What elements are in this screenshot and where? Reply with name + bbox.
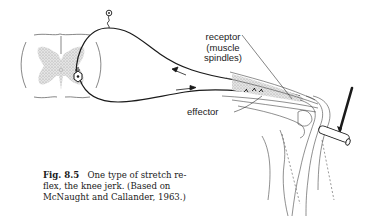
dorsal-root-ganglion — [106, 10, 112, 28]
motor-neuron-cell-body — [74, 68, 82, 82]
receptor-label-line1: receptor — [198, 32, 248, 43]
leg-movement-dashed-lines — [282, 134, 334, 204]
receptor-label: receptor (muscle spindles) — [198, 32, 248, 64]
knee-jerk-reflex-figure: receptor (muscle spindles) effector Fig.… — [0, 0, 373, 216]
caption-line3: McNaught and Callander, 1963.) — [43, 192, 203, 203]
central-canal — [60, 69, 63, 72]
quadriceps-muscle — [222, 72, 318, 112]
figure-number: Fig. 8.5 — [43, 170, 79, 180]
receptor-label-line3: spindles) — [198, 53, 248, 64]
knee-joint-and-leg — [238, 96, 330, 216]
caption-line1: One type of stretch re- — [88, 170, 187, 180]
caption-line2: flex, the knee jerk. (Based on — [43, 181, 203, 192]
figure-caption: Fig. 8.5 One type of stretch re- flex, t… — [43, 170, 203, 202]
effector-label: effector — [187, 107, 219, 118]
